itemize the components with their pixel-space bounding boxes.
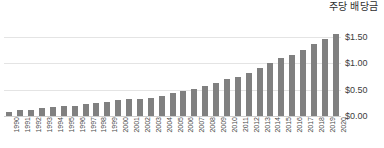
x-axis-tick-slot: 2002 [135, 117, 146, 148]
bar[interactable] [137, 99, 143, 116]
x-axis-tick-slot: 2000 [113, 117, 124, 148]
plot-area [4, 24, 341, 116]
bar-slot [287, 24, 298, 116]
bar-slot [91, 24, 102, 116]
bar[interactable] [246, 73, 252, 116]
x-axis-tick-slot: 1999 [102, 117, 113, 148]
x-axis-tick-slot: 2001 [124, 117, 135, 148]
bar[interactable] [289, 55, 295, 117]
x-axis-tick-slot: 1996 [69, 117, 80, 148]
bar-slot [276, 24, 287, 116]
bar-slot [113, 24, 124, 116]
bar-slot [124, 24, 135, 116]
x-axis-tick-slot: 2016 [287, 117, 298, 148]
x-axis-tick-slot: 2004 [156, 117, 167, 148]
y-axis-tick: $1.50 [345, 33, 368, 42]
x-axis-tick-slot: 2003 [145, 117, 156, 148]
bar-slot [37, 24, 48, 116]
bar-slot [58, 24, 69, 116]
x-axis-tick-slot: 2011 [232, 117, 243, 148]
bar-slot [135, 24, 146, 116]
x-axis-tick-slot: 2015 [276, 117, 287, 148]
bar-slot [102, 24, 113, 116]
bar[interactable] [278, 58, 284, 116]
dividend-per-share-bar-chart: 주당 배당금 $0.00$0.50$1.00$1.50 199019911992… [0, 0, 384, 148]
bar-slot [15, 24, 26, 116]
bar-slot [211, 24, 222, 116]
x-axis-tick-slot: 2009 [211, 117, 222, 148]
bar-slot [243, 24, 254, 116]
x-axis-tick-slot: 1992 [26, 117, 37, 148]
bar[interactable] [170, 93, 176, 116]
y-axis-tick-labels: $0.00$0.50$1.00$1.50 [345, 24, 384, 116]
bar[interactable] [311, 44, 317, 116]
x-axis-tick-slot: 1993 [37, 117, 48, 148]
bar[interactable] [257, 68, 263, 116]
bar-slot [319, 24, 330, 116]
bar[interactable] [126, 99, 132, 116]
bar-slot [26, 24, 37, 116]
x-axis-tick-slot: 2005 [167, 117, 178, 148]
bar[interactable] [115, 100, 121, 116]
x-axis-tick-slot: 1998 [91, 117, 102, 148]
bar-slot [232, 24, 243, 116]
bar[interactable] [333, 34, 339, 116]
bar-slot [189, 24, 200, 116]
bar-slot [309, 24, 320, 116]
bar[interactable] [50, 107, 56, 116]
bar-slot [80, 24, 91, 116]
bar-slot [330, 24, 341, 116]
bar[interactable] [191, 89, 197, 116]
bar[interactable] [61, 106, 67, 116]
bar[interactable] [300, 50, 306, 116]
x-axis-tick-labels: 1990199119921993199419951996199719981999… [4, 117, 341, 148]
x-axis-tick-slot: 2020 [330, 117, 341, 148]
x-axis-tick-slot: 1997 [80, 117, 91, 148]
x-axis-tick-slot: 2007 [189, 117, 200, 148]
bar-slot [4, 24, 15, 116]
y-axis-tick: $1.00 [345, 59, 368, 68]
bar[interactable] [104, 102, 110, 116]
bar[interactable] [159, 96, 165, 116]
bar-slot [156, 24, 167, 116]
bar[interactable] [180, 91, 186, 116]
y-axis-tick: $0.50 [345, 85, 368, 94]
bar-series [4, 24, 341, 116]
bar[interactable] [72, 106, 78, 116]
bar[interactable] [235, 77, 241, 116]
x-axis-tick-slot: 2019 [319, 117, 330, 148]
bar-slot [145, 24, 156, 116]
bar[interactable] [267, 63, 273, 116]
x-axis-tick-slot: 1991 [15, 117, 26, 148]
bar-slot [69, 24, 80, 116]
bar[interactable] [148, 98, 154, 116]
bar-slot [222, 24, 233, 116]
chart-title: 주당 배당금 [329, 1, 378, 13]
x-axis-tick-slot: 2018 [309, 117, 320, 148]
bar[interactable] [224, 79, 230, 116]
bar[interactable] [213, 83, 219, 116]
bar[interactable] [39, 108, 45, 116]
x-axis-tick-slot: 2017 [298, 117, 309, 148]
bar-slot [48, 24, 59, 116]
x-axis-tick: 2020 [339, 117, 346, 133]
x-axis-tick-slot: 2012 [243, 117, 254, 148]
bar-slot [178, 24, 189, 116]
x-axis-tick-slot: 2014 [265, 117, 276, 148]
y-axis-tick: $0.00 [345, 112, 368, 121]
x-axis-tick-slot: 1990 [4, 117, 15, 148]
x-axis-tick-slot: 1994 [48, 117, 59, 148]
bar[interactable] [93, 103, 99, 116]
bar[interactable] [202, 86, 208, 116]
bar-slot [265, 24, 276, 116]
x-axis-tick-slot: 2013 [254, 117, 265, 148]
bar-slot [200, 24, 211, 116]
x-axis-tick-slot: 2010 [222, 117, 233, 148]
bar-slot [167, 24, 178, 116]
bar-slot [298, 24, 309, 116]
x-axis-tick-slot: 1995 [58, 117, 69, 148]
bar[interactable] [83, 104, 89, 116]
x-axis-tick-slot: 2008 [200, 117, 211, 148]
x-axis-tick-slot: 2006 [178, 117, 189, 148]
bar[interactable] [322, 39, 328, 116]
